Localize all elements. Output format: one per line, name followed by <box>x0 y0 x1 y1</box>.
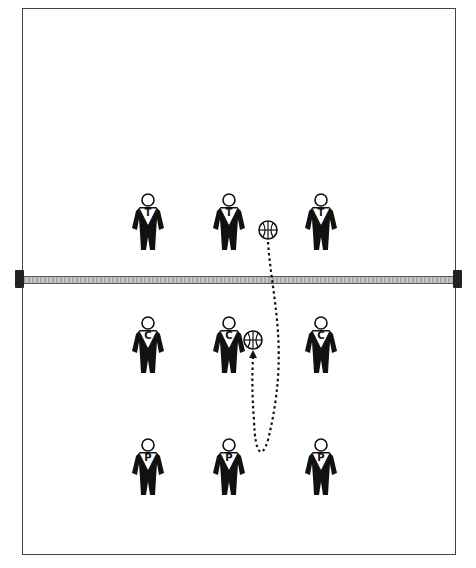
player-c-middle: C <box>131 316 165 374</box>
player-label: P <box>212 452 246 463</box>
player-label: P <box>131 452 165 463</box>
ball-icon <box>257 219 279 241</box>
player-p-bottom: P <box>212 438 246 496</box>
player-label: T <box>131 207 165 218</box>
player-label: C <box>304 330 338 341</box>
player-t-top: T <box>212 193 246 251</box>
player-label: T <box>212 207 246 218</box>
player-label: C <box>131 330 165 341</box>
player-t-top: T <box>304 193 338 251</box>
player-p-bottom: P <box>131 438 165 496</box>
player-c-middle: C <box>212 316 246 374</box>
player-p-bottom: P <box>304 438 338 496</box>
player-label: P <box>304 452 338 463</box>
player-label: T <box>304 207 338 218</box>
player-t-top: T <box>131 193 165 251</box>
player-label: C <box>212 330 246 341</box>
ball-icon <box>242 329 264 351</box>
player-c-middle: C <box>304 316 338 374</box>
arrow-head-icon <box>249 350 257 358</box>
